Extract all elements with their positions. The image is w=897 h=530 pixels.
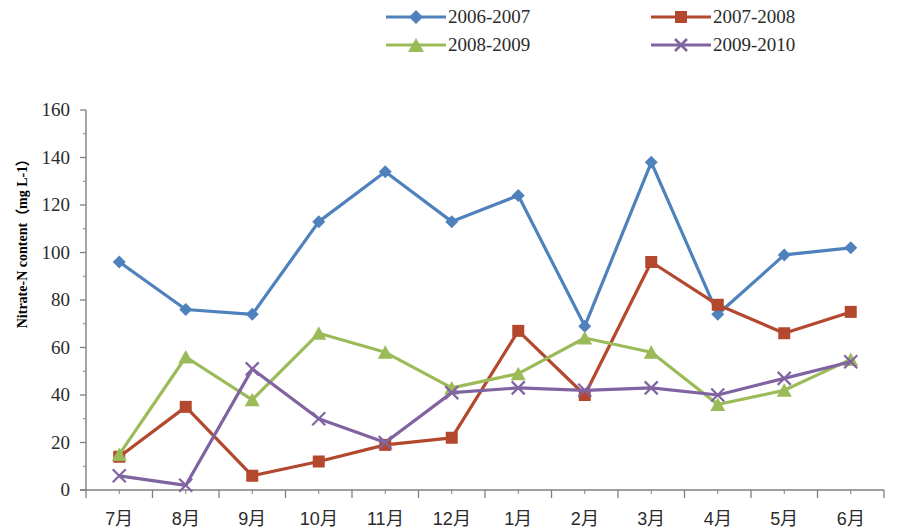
plot-canvas bbox=[0, 60, 897, 526]
legend-item-2006-2007: 2006-2007 bbox=[386, 4, 530, 30]
x-axis-tick-label: 8月 bbox=[172, 504, 200, 530]
legend-label-2006-2007: 2006-2007 bbox=[446, 6, 530, 28]
legend-key-2008-2009 bbox=[386, 35, 446, 55]
legend-label-2009-2010: 2009-2010 bbox=[711, 34, 795, 56]
x-axis-tick-label: 2月 bbox=[571, 504, 599, 530]
series-2009-2010 bbox=[113, 355, 858, 492]
y-axis-tick-label: 80 bbox=[24, 290, 70, 309]
series-2008-2009 bbox=[112, 326, 859, 461]
y-axis-tick-label: 20 bbox=[24, 433, 70, 452]
legend-item-2009-2010: 2009-2010 bbox=[651, 32, 795, 58]
y-axis-tick-label: 40 bbox=[24, 385, 70, 404]
x-axis-tick-label: 10月 bbox=[300, 504, 338, 530]
x-axis-tick-label: 12月 bbox=[433, 504, 471, 530]
y-axis-tick-label: 120 bbox=[24, 195, 70, 214]
legend-key-2006-2007 bbox=[386, 7, 446, 27]
y-axis-tick-labels: 160140120100806040200 bbox=[20, 60, 70, 526]
x-axis-tick-label: 6月 bbox=[837, 504, 865, 530]
x-axis-tick-label: 5月 bbox=[770, 504, 798, 530]
x-axis-tick-label: 3月 bbox=[637, 504, 665, 530]
series-2006-2007 bbox=[113, 156, 858, 333]
chart-legend: 2006-2007 2007-2008 2008-2009 bbox=[386, 2, 886, 60]
x-axis-tick-label: 7月 bbox=[105, 504, 133, 530]
x-axis-tick-label: 1月 bbox=[504, 504, 532, 530]
x-axis-tick-label: 9月 bbox=[238, 504, 266, 530]
legend-key-2009-2010 bbox=[651, 35, 711, 55]
y-axis-tick-label: 160 bbox=[24, 100, 70, 119]
legend-key-2007-2008 bbox=[651, 7, 711, 27]
legend-item-2007-2008: 2007-2008 bbox=[651, 4, 795, 30]
plot-area: Nitrate-N content（mg L-1） 16014012010080… bbox=[0, 60, 897, 526]
y-axis-tick-label: 0 bbox=[24, 480, 70, 499]
x-axis-tick-label: 4月 bbox=[704, 504, 732, 530]
legend-label-2007-2008: 2007-2008 bbox=[711, 6, 795, 28]
y-axis-tick-label: 60 bbox=[24, 338, 70, 357]
x-axis-tick-label: 11月 bbox=[367, 504, 404, 530]
y-axis-tick-label: 140 bbox=[24, 148, 70, 167]
y-axis-tick-label: 100 bbox=[24, 243, 70, 262]
legend-item-2008-2009: 2008-2009 bbox=[386, 32, 530, 58]
legend-label-2008-2009: 2008-2009 bbox=[446, 34, 530, 56]
